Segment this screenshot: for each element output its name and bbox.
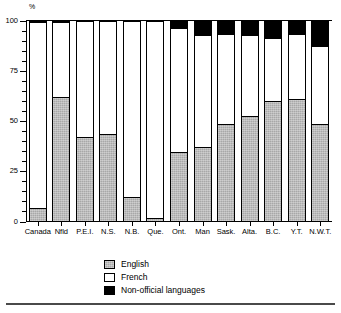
bar-segment-nonofficial [264,21,282,39]
bar-que [146,21,164,222]
bar-segment-english [123,197,141,222]
bar-segment-nonofficial [123,20,141,22]
footer-divider-rule [6,303,335,305]
bar-pei [76,21,94,222]
bar-ns [99,21,117,222]
y-axis-tick-label: 25 [0,167,18,175]
bar-segment-french [170,29,188,152]
legend-item: Non-official languages [104,284,294,296]
x-axis-tick [179,222,180,226]
chart-figure: % 0255075100 CanadaNfldP.E.I.N.S.N.B.Que… [0,0,341,313]
legend-item: English [104,258,294,270]
x-axis-tick [250,222,251,226]
x-axis-tick [85,222,86,226]
bar-segment-nonofficial [146,20,164,22]
bar-sask [217,21,235,222]
x-axis-tick [203,222,204,226]
bar-nfld [52,21,70,222]
bar-segment-english [170,152,188,222]
bar-segment-french [194,36,212,147]
x-axis-tick-label: N.W.T. [300,227,340,236]
bar-nwt [311,21,329,222]
bar-bc [264,21,282,222]
english-swatch [104,260,115,269]
bar-segment-nonofficial [76,20,94,22]
bar-segment-english [311,124,329,222]
bar-segment-french [123,22,141,197]
plot-area [26,21,332,222]
bar-segment-english [146,218,164,222]
x-axis-tick [273,222,274,226]
bar-segment-french [311,47,329,123]
x-axis-tick [132,222,133,226]
y-axis-tick-label: 100 [0,17,18,25]
x-axis-tick [38,222,39,226]
bar-segment-french [99,22,117,134]
y-axis-tick-label: 50 [0,117,18,125]
bar-segment-english [29,208,47,222]
bar-segment-french [52,23,70,97]
bar-segment-nonofficial [311,21,329,47]
x-axis-tick [297,222,298,226]
y-axis-tick-label: 0 [0,218,18,226]
bar-segment-nonofficial [288,21,306,35]
bar-segment-nonofficial [29,21,47,23]
bar-segment-french [217,35,235,123]
legend-item-label: French [121,272,147,282]
x-axis-tick [61,222,62,226]
legend-item: French [104,271,294,283]
bar-segment-nonofficial [241,21,259,36]
bar-segment-french [29,23,47,208]
bar-segment-nonofficial [99,20,117,22]
bar-segment-nonofficial [217,21,235,35]
x-axis-tick [108,222,109,226]
bar-man [194,21,212,222]
y-axis-tick-label: 75 [0,67,18,75]
bar-segment-english [264,101,282,222]
bar-yt [288,21,306,222]
bar-segment-english [52,97,70,222]
bar-canada [29,21,47,222]
bar-segment-nonofficial [52,21,70,23]
bar-segment-french [76,22,94,137]
bar-segment-english [99,134,117,222]
bar-segment-english [76,137,94,222]
bar-segment-english [194,147,212,222]
bar-segment-english [241,116,259,222]
chart-legend: EnglishFrenchNon-official languages [104,258,294,297]
x-axis-tick [320,222,321,226]
legend-item-label: English [121,259,149,269]
bar-segment-french [241,36,259,116]
french-swatch [104,273,115,282]
x-axis-tick [155,222,156,226]
y-axis-unit-label: % [29,3,35,11]
legend-item-label: Non-official languages [121,285,205,295]
x-axis-tick [226,222,227,226]
bar-nb [123,21,141,222]
bar-segment-french [146,22,164,218]
bar-segment-french [288,35,306,99]
bar-segment-english [217,124,235,222]
bar-segment-nonofficial [170,21,188,29]
bar-ont [170,21,188,222]
nonofficial-swatch [104,286,115,295]
bar-segment-french [264,39,282,101]
bar-segment-nonofficial [194,21,212,36]
bar-alta [241,21,259,222]
bar-segment-english [288,99,306,222]
